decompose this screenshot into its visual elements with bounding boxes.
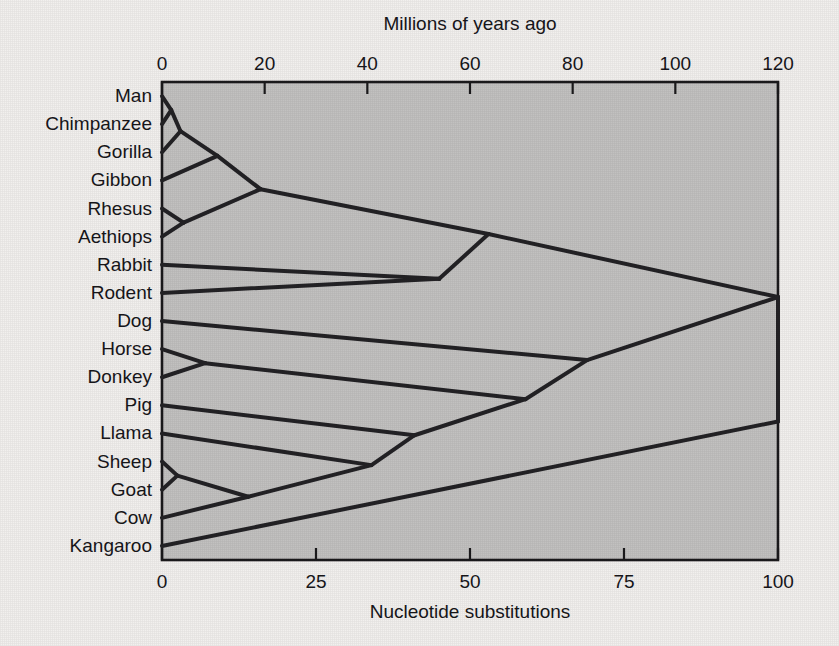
taxon-label-kangaroo: Kangaroo <box>70 535 152 556</box>
tree-diagram: Millions of years ago 020406080100120 Ma… <box>0 0 839 646</box>
bottom-tick-label-50: 50 <box>459 571 480 592</box>
taxon-label-pig: Pig <box>125 394 152 415</box>
bottom-tick-label-0: 0 <box>157 571 168 592</box>
taxon-label-gorilla: Gorilla <box>97 141 152 162</box>
bottom-tick-label-25: 25 <box>305 571 326 592</box>
taxon-label-gibbon: Gibbon <box>91 169 152 190</box>
top-tick-label-100: 100 <box>659 53 691 74</box>
taxon-label-cow: Cow <box>114 507 152 528</box>
top-tick-label-40: 40 <box>357 53 378 74</box>
taxon-label-llama: Llama <box>100 422 152 443</box>
bottom-axis-tick-labels: 0255075100 <box>157 571 794 592</box>
taxon-label-donkey: Donkey <box>88 366 153 387</box>
plot-frame <box>162 82 778 560</box>
taxon-label-aethiops: Aethiops <box>78 226 152 247</box>
taxon-label-goat: Goat <box>111 479 153 500</box>
bottom-tick-label-75: 75 <box>613 571 634 592</box>
taxon-label-rhesus: Rhesus <box>88 198 152 219</box>
taxon-label-man: Man <box>115 85 152 106</box>
taxon-label-dog: Dog <box>117 310 152 331</box>
top-tick-label-120: 120 <box>762 53 794 74</box>
top-axis-tick-labels: 020406080100120 <box>157 53 794 74</box>
taxon-label-sheep: Sheep <box>97 451 152 472</box>
top-tick-label-60: 60 <box>459 53 480 74</box>
top-tick-label-80: 80 <box>562 53 583 74</box>
bottom-axis-title: Nucleotide substitutions <box>370 601 571 622</box>
taxon-labels: ManChimpanzeeGorillaGibbonRhesusAethiops… <box>45 85 152 556</box>
taxon-label-rodent: Rodent <box>91 282 153 303</box>
taxon-label-chimpanzee: Chimpanzee <box>45 113 152 134</box>
top-axis-title: Millions of years ago <box>383 13 556 34</box>
taxon-label-rabbit: Rabbit <box>97 254 153 275</box>
phylogenetic-tree-figure: Millions of years ago 020406080100120 Ma… <box>0 0 839 646</box>
top-tick-label-0: 0 <box>157 53 168 74</box>
top-tick-label-20: 20 <box>254 53 275 74</box>
bottom-tick-label-100: 100 <box>762 571 794 592</box>
taxon-label-horse: Horse <box>101 338 152 359</box>
